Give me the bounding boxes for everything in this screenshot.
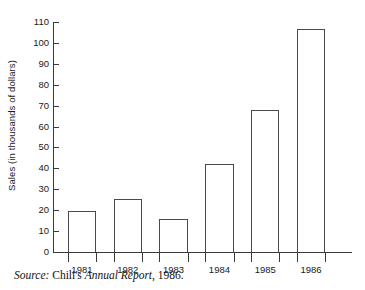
- y-tick-label: 10: [38, 225, 49, 236]
- x-tick-mark: [142, 253, 143, 262]
- y-tick-mark: [54, 252, 59, 253]
- y-tick-mark: [54, 189, 59, 190]
- y-tick: 0: [53, 252, 59, 253]
- y-tick-label: 80: [38, 79, 49, 90]
- y-tick-label: 50: [38, 141, 49, 152]
- y-tick-label: 110: [34, 16, 49, 27]
- y-tick-label: 90: [38, 58, 49, 69]
- y-tick-mark: [54, 22, 59, 23]
- x-tick-label: 1986: [288, 264, 334, 276]
- y-tick: 50: [53, 147, 59, 148]
- caption-company: Chili's: [52, 269, 82, 281]
- caption-year: , 1986.: [152, 269, 184, 281]
- x-tick-mark: [188, 253, 189, 262]
- y-tick: 20: [53, 210, 59, 211]
- caption-source-word: Source:: [14, 269, 49, 281]
- y-tick-mark: [54, 210, 59, 211]
- x-axis-line: [53, 252, 352, 253]
- y-tick: 100: [53, 43, 59, 44]
- x-tick-mark: [205, 253, 206, 262]
- y-tick-label: 30: [38, 183, 49, 194]
- x-tick-mark: [297, 253, 298, 262]
- x-tick-mark: [234, 253, 235, 262]
- x-tick-mark: [159, 253, 160, 262]
- bar: [159, 219, 187, 252]
- y-axis-line: [53, 22, 54, 252]
- bar-chart-figure: Sales (in thousands of dollars) 01020304…: [0, 0, 365, 290]
- y-tick: 60: [53, 127, 59, 128]
- y-tick-label: 100: [33, 37, 49, 48]
- y-tick: 80: [53, 85, 59, 86]
- y-tick-label: 70: [38, 100, 49, 111]
- y-tick: 40: [53, 168, 59, 169]
- y-tick-mark: [54, 168, 59, 169]
- x-tick-label: 1985: [242, 264, 288, 276]
- y-tick-mark: [54, 106, 59, 107]
- bar: [297, 29, 325, 252]
- y-tick-label: 40: [38, 162, 49, 173]
- y-tick: 30: [53, 189, 59, 190]
- y-tick: 90: [53, 64, 59, 65]
- bar: [114, 199, 142, 252]
- x-tick-mark: [325, 253, 326, 262]
- y-axis-title: Sales (in thousands of dollars): [0, 0, 22, 250]
- y-tick-label: 0: [44, 246, 49, 257]
- y-tick-mark: [54, 64, 59, 65]
- plot-area: 0102030405060708090100110 19811982198319…: [53, 22, 352, 252]
- x-tick-mark: [279, 253, 280, 262]
- bar: [205, 164, 233, 252]
- bar: [68, 211, 96, 252]
- y-tick-mark: [54, 43, 59, 44]
- y-tick-mark: [54, 85, 59, 86]
- y-tick-mark: [54, 231, 59, 232]
- y-tick: 10: [53, 231, 59, 232]
- x-tick-label: 1984: [197, 264, 243, 276]
- source-caption: Source: Chili's Annual Report, 1986.: [14, 268, 184, 282]
- x-tick-mark: [251, 253, 252, 262]
- y-tick-mark: [54, 147, 59, 148]
- x-tick-mark: [96, 253, 97, 262]
- x-tick-mark: [114, 253, 115, 262]
- y-axis-title-text: Sales (in thousands of dollars): [6, 60, 17, 191]
- x-tick-mark: [68, 253, 69, 262]
- y-tick: 70: [53, 106, 59, 107]
- bar: [251, 110, 279, 252]
- caption-document: Annual Report: [85, 269, 152, 281]
- y-tick-label: 20: [38, 204, 49, 215]
- y-tick: 110: [53, 22, 59, 23]
- y-tick-label: 60: [38, 121, 49, 132]
- y-tick-mark: [54, 127, 59, 128]
